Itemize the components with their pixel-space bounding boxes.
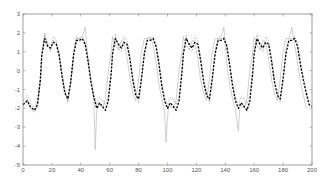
series-dashed-line: [23, 39, 312, 111]
axes-frame: [23, 14, 312, 165]
y-tick-label: -5: [15, 162, 21, 168]
y-tick-label: 1: [17, 49, 21, 55]
y-tick-label: 2: [17, 30, 21, 36]
x-tick-label: 0: [21, 167, 25, 173]
y-tick-label: -4: [15, 143, 21, 149]
chart-figure: 020406080100120140160180200 3210-1-2-3-4…: [0, 0, 332, 184]
x-tick-label: 180: [278, 167, 289, 173]
y-tick-label: -2: [15, 105, 21, 111]
line-chart: 020406080100120140160180200 3210-1-2-3-4…: [0, 0, 332, 184]
x-tick-label: 120: [191, 167, 202, 173]
x-tick-label: 200: [307, 167, 318, 173]
x-tick-label: 60: [106, 167, 113, 173]
x-tick-label: 20: [49, 167, 56, 173]
x-tick-label: 80: [135, 167, 142, 173]
x-tick-label: 100: [162, 167, 173, 173]
y-tick-label: 0: [17, 68, 21, 74]
x-tick-label: 160: [249, 167, 260, 173]
x-tick-label: 40: [77, 167, 84, 173]
x-tick-label: 140: [220, 167, 231, 173]
y-tick-label: 3: [17, 11, 21, 17]
y-tick-label: -1: [15, 87, 21, 93]
y-tick-label: -3: [15, 124, 21, 130]
series-layer: [23, 27, 312, 150]
